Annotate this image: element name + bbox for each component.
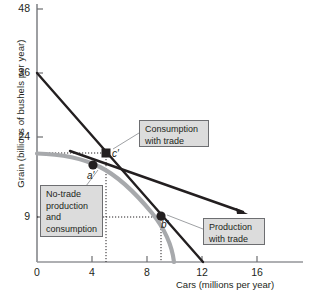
x-tick-label-16: 16 (247, 266, 267, 278)
y-tick-label-36: 36 (6, 66, 30, 78)
callout-no-trade-production-and-consumption: No-trade production and consumption (40, 185, 103, 237)
x-axis-title: Cars (millions per year) (176, 279, 274, 290)
chart-figure: Grain (billions of bushels per year) Car… (0, 0, 309, 307)
point-marker-a-prime (88, 160, 97, 169)
chart-plot-area (0, 0, 309, 307)
point-marker-c-prime (102, 149, 111, 158)
y-tick-label-24: 24 (6, 130, 30, 142)
y-tick-label-9: 9 (6, 210, 30, 222)
x-tick-label-8: 8 (137, 266, 157, 278)
point-label-b-prime: b′ (161, 219, 168, 230)
callout-production-with-trade: Production with trade (203, 218, 265, 245)
x-tick-label-0: 0 (27, 266, 47, 278)
point-label-c-prime: c′ (112, 148, 119, 159)
point-label-a-prime: a′ (87, 170, 94, 181)
callout-consumption-with-trade: Consumption with trade (139, 120, 209, 147)
leader-consumption (113, 133, 139, 149)
x-tick-label-12: 12 (192, 266, 212, 278)
x-tick-label-4: 4 (82, 266, 102, 278)
y-tick-label-48: 48 (6, 2, 30, 14)
y-axis-title: Grain (billions of bushels per year) (15, 14, 26, 214)
